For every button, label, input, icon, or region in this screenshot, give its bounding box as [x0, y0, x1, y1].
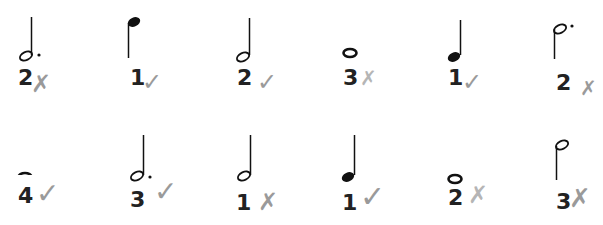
beat-count: 1: [236, 192, 251, 214]
half-note-icon: [234, 125, 274, 185]
beat-count: 4: [18, 185, 33, 207]
note-card-2: 1 ✓: [118, 10, 198, 110]
note-card-3: 2 ✓: [228, 10, 308, 110]
whole-note-icon: [444, 125, 484, 185]
quarter-note-icon: [442, 15, 482, 65]
note-card-6: 2 ✗: [548, 10, 603, 110]
beat-count: 2: [556, 72, 571, 94]
note-card-4: 3 ✗: [336, 10, 416, 110]
whole-note-icon: [336, 15, 376, 65]
cross-mark-icon: ✗: [360, 68, 377, 88]
beat-count: 2: [237, 67, 252, 89]
note-card-7: 4 ✓: [14, 125, 94, 225]
cross-mark-icon: ✗: [569, 185, 591, 211]
beat-count: 2: [448, 187, 463, 209]
check-mark-icon: ✓: [462, 70, 482, 94]
check-mark-icon: ✓: [36, 180, 59, 208]
note-card-11: 2 ✗: [444, 125, 524, 225]
cross-mark-icon: ✗: [580, 78, 597, 98]
beat-count: 1: [342, 192, 357, 214]
note-card-1: 2 ✗: [14, 10, 94, 110]
cross-mark-icon: ✗: [258, 190, 278, 214]
note-card-12: 3 ✗: [550, 125, 603, 225]
check-mark-icon: ✓: [257, 70, 277, 94]
check-mark-icon: ✓: [360, 182, 385, 212]
note-card-5: 1 ✓: [442, 10, 522, 110]
quarter-note-icon: [118, 15, 158, 65]
dotted-half-note-icon: [548, 15, 588, 65]
note-card-9: 1 ✗: [234, 125, 314, 225]
quarter-note-icon: [338, 125, 378, 185]
half-note-icon: [228, 15, 268, 65]
beat-count: 3: [130, 189, 145, 211]
half-note-icon: [550, 125, 590, 185]
cross-mark-icon: ✗: [468, 183, 488, 207]
cross-mark-icon: ✗: [31, 72, 51, 96]
check-mark-icon: ✓: [154, 178, 177, 206]
note-card-10: 1 ✓: [338, 125, 418, 225]
whole-note-icon: [14, 125, 54, 175]
check-mark-icon: ✓: [142, 70, 162, 94]
dotted-half-note-icon: [14, 15, 54, 65]
beat-count: 3: [343, 67, 358, 89]
note-card-8: 3 ✓: [126, 125, 206, 225]
